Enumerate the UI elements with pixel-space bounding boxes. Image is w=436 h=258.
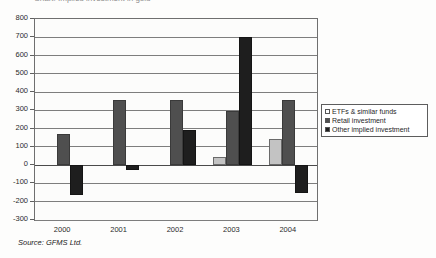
y-tick-mark (30, 146, 34, 147)
y-tick-mark (30, 109, 34, 110)
chart-plot-frame (34, 18, 318, 221)
y-tick-label: 700 (2, 32, 28, 40)
bar-retail-2003 (226, 111, 239, 165)
x-tick-label-2004: 2004 (268, 226, 308, 234)
x-tick-label-2000: 2000 (42, 226, 82, 234)
y-tick-label: -100 (2, 178, 28, 186)
y-tick-label: 500 (2, 69, 28, 77)
source-note: Source: GFMS Ltd. (18, 238, 82, 247)
y-tick-mark (30, 36, 34, 37)
bar-retail-2004 (282, 100, 295, 165)
legend-label: Retail investment (332, 117, 386, 125)
legend-item-other: Other implied investment (325, 125, 425, 134)
y-tick-mark (30, 18, 34, 19)
y-tick-label: 800 (2, 14, 28, 22)
legend-label: Other implied investment (332, 126, 409, 134)
bar-retail-2001 (113, 100, 126, 165)
legend-swatch-etf-icon (325, 109, 330, 114)
bar-etf-2004 (269, 139, 282, 165)
legend-item-retail: Retail investment (325, 116, 425, 125)
y-tick-label: 600 (2, 51, 28, 59)
y-tick-label: 100 (2, 142, 28, 150)
y-tick-mark (30, 182, 34, 183)
x-tick-label-2001: 2001 (99, 226, 139, 234)
y-tick-mark (30, 164, 34, 165)
y-tick-mark (30, 219, 34, 220)
y-tick-label: -300 (2, 215, 28, 223)
chart-legend: ETFs & similar fundsRetail investmentOth… (321, 104, 428, 137)
bar-retail-2002 (170, 100, 183, 165)
bar-other-2001 (126, 165, 139, 170)
y-tick-label: 0 (2, 160, 28, 168)
y-tick-mark (30, 73, 34, 74)
legend-swatch-other-icon (325, 127, 330, 132)
chart-page: Chart: Implied investment in gold 800700… (0, 0, 436, 258)
y-tick-label: 200 (2, 124, 28, 132)
x-tick-label-2002: 2002 (155, 226, 195, 234)
bar-other-2004 (295, 165, 308, 193)
bar-other-2002 (183, 130, 196, 166)
legend-label: ETFs & similar funds (332, 108, 397, 116)
x-tick-label-2003: 2003 (211, 226, 251, 234)
bar-etf-2003 (213, 157, 226, 165)
y-tick-mark (30, 55, 34, 56)
y-tick-mark (30, 128, 34, 129)
legend-item-etf: ETFs & similar funds (325, 107, 425, 116)
x-axis-labels: 20002001200220032004 (34, 223, 318, 237)
bar-retail-2000 (57, 134, 70, 165)
bar-other-2003 (239, 37, 252, 165)
y-tick-mark (30, 91, 34, 92)
y-tick-label: -200 (2, 197, 28, 205)
y-tick-mark (30, 201, 34, 202)
y-tick-label: 300 (2, 105, 28, 113)
clipped-title: Chart: Implied investment in gold (34, 0, 234, 5)
bars-layer (35, 19, 317, 220)
y-tick-label: 400 (2, 87, 28, 95)
legend-swatch-retail-icon (325, 118, 330, 123)
bar-other-2000 (70, 165, 83, 195)
